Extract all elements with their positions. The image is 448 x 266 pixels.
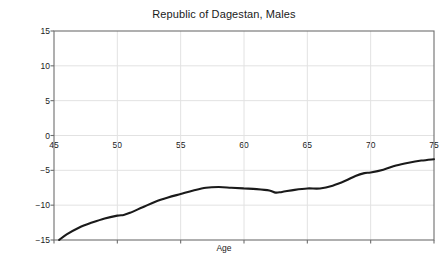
grid-lines [54, 31, 434, 240]
tick-marks [51, 31, 435, 244]
data-series-line [59, 159, 434, 240]
chart-container: Republic of Dagestan, Males Age Differen… [0, 0, 448, 266]
plot-area [0, 0, 448, 266]
